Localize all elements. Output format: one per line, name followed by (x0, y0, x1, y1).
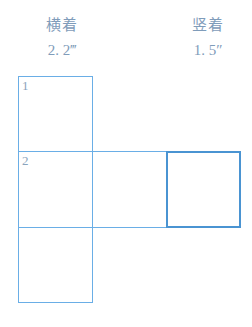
grid-cell[interactable]: 2 (18, 151, 93, 228)
selected-cell[interactable] (166, 151, 241, 228)
vertical-value: 1. 5″ (168, 41, 248, 59)
grid-cell[interactable]: 1 (18, 76, 93, 152)
horizontal-value: 2. 2‴ (22, 41, 102, 59)
cell-number: 2 (22, 154, 29, 168)
horizontal-title: 横着 (22, 16, 102, 34)
horizontal-header: 横着 2. 2‴ (22, 16, 102, 59)
vertical-title: 竖着 (168, 16, 248, 34)
cell-number: 1 (22, 79, 29, 93)
vertical-header: 竖着 1. 5″ (168, 16, 248, 59)
grid-cell[interactable] (18, 227, 93, 303)
grid-cell[interactable] (92, 151, 167, 228)
